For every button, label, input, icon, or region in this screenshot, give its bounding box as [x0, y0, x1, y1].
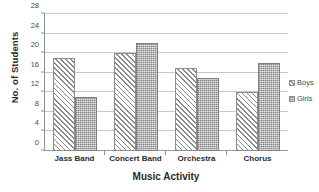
- legend: Boys Girls: [289, 78, 314, 103]
- bar-group: [105, 14, 166, 151]
- legend-item-girls: Girls: [289, 94, 314, 103]
- y-axis-tick-label: 4: [35, 118, 39, 127]
- legend-label-girls: Girls: [297, 94, 312, 103]
- bar-girls: [197, 78, 219, 151]
- bar-group: [44, 14, 105, 151]
- bar-boys: [114, 53, 136, 151]
- bar-girls: [258, 63, 280, 151]
- legend-label-boys: Boys: [297, 78, 314, 87]
- bar-girls: [136, 43, 158, 151]
- legend-swatch-boys-icon: [289, 80, 295, 86]
- legend-swatch-girls-icon: [289, 96, 295, 102]
- bar-group: [227, 14, 288, 151]
- y-axis-title: No. of Students: [9, 13, 20, 123]
- y-axis-tick-label: 20: [31, 40, 39, 49]
- x-axis-tick-label: Jass Band: [44, 154, 105, 163]
- y-axis-tick-label: 0: [35, 138, 39, 147]
- y-axis-tick-label: 8: [35, 98, 39, 107]
- y-axis-tick-label: 16: [31, 59, 39, 68]
- bar-chart: No. of Students 0481216202428 Jass BandC…: [0, 0, 319, 192]
- y-axis-tick-label: 24: [31, 20, 39, 29]
- bar-boys: [53, 58, 75, 151]
- x-axis-title: Music Activity: [44, 171, 288, 182]
- bar-groups: [44, 14, 288, 151]
- y-axis-tick-label: 12: [31, 79, 39, 88]
- bar-girls: [75, 97, 97, 151]
- bar-boys: [236, 92, 258, 151]
- y-axis-tick-label: 28: [31, 1, 39, 10]
- x-axis-tick-labels: Jass BandConcert BandOrchestraChorus: [44, 154, 288, 163]
- bar-group: [166, 14, 227, 151]
- legend-item-boys: Boys: [289, 78, 314, 87]
- plot-area: 0481216202428: [44, 14, 288, 151]
- x-axis-tick-label: Concert Band: [105, 154, 166, 163]
- x-axis-tick-label: Orchestra: [166, 154, 227, 163]
- bar-boys: [175, 68, 197, 151]
- x-axis-tick-label: Chorus: [227, 154, 288, 163]
